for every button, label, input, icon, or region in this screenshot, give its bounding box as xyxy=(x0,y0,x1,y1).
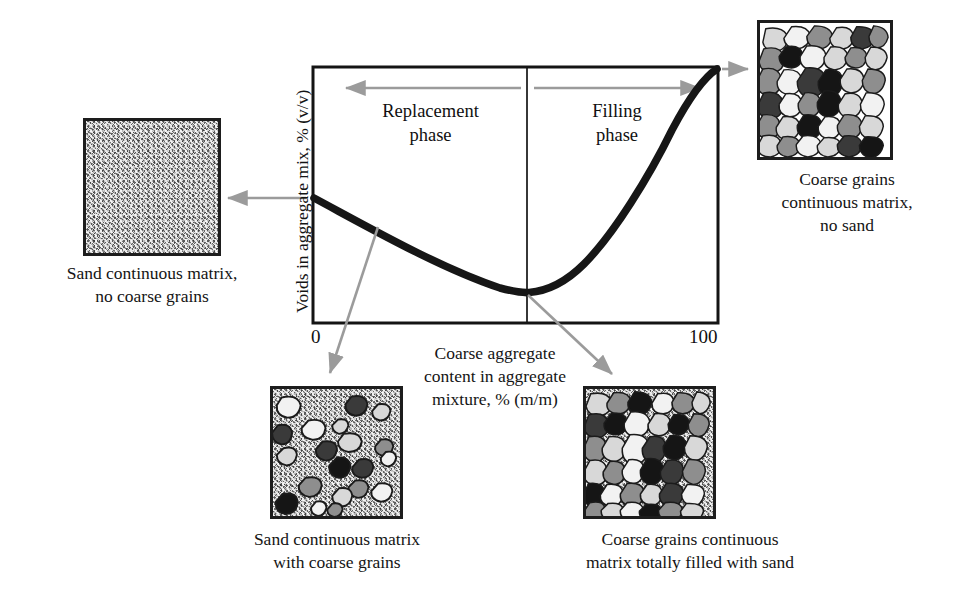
caption-sand-with-coarse: Sand continuous matrix with coarse grain… xyxy=(203,528,471,574)
x-tick-100: 100 xyxy=(689,326,718,348)
panel-sand-with-coarse xyxy=(270,386,403,519)
caption-sand-only: Sand continuous matrix, no coarse grains xyxy=(11,262,293,308)
x-axis-title-line-1: Coarse aggregate xyxy=(385,342,605,365)
caption-coarse-only: Coarse grains continuous matrix, no sand xyxy=(748,168,946,237)
caption-coarse-filled-line-2: matrix totally filled with sand xyxy=(520,551,860,574)
caption-coarse-only-line-3: no sand xyxy=(748,214,946,237)
x-axis-title-line-2: content in aggregate xyxy=(385,365,605,388)
caption-sand-only-line-1: Sand continuous matrix, xyxy=(11,262,293,285)
caption-coarse-filled-with-sand: Coarse grains continuous matrix totally … xyxy=(520,528,860,574)
filling-phase-label: Filling phase xyxy=(537,100,697,147)
replacement-phase-line-1: Replacement xyxy=(343,100,518,124)
x-axis-title: Coarse aggregate content in aggregate mi… xyxy=(385,342,605,410)
sand-texture-fill xyxy=(86,121,218,253)
panel-sand-only xyxy=(83,118,221,256)
caption-sand-with-coarse-line-2: with coarse grains xyxy=(203,551,471,574)
packed-grains-in-sand xyxy=(586,389,713,516)
caption-coarse-only-line-2: continuous matrix, xyxy=(748,191,946,214)
y-axis-title: Voids in aggregate mix, % (v/v) xyxy=(292,90,313,313)
panel-coarse-filled-with-sand xyxy=(583,386,716,519)
figure-root: Replacement phase Filling phase 0 100 Vo… xyxy=(0,0,953,600)
replacement-phase-line-2: phase xyxy=(343,124,518,148)
filling-phase-line-2: phase xyxy=(537,124,697,148)
panel-coarse-only xyxy=(757,20,893,160)
connector-sand-with-coarse-icon xyxy=(330,227,378,373)
filling-phase-line-1: Filling xyxy=(537,100,697,124)
caption-sand-only-line-2: no coarse grains xyxy=(11,285,293,308)
x-axis-title-line-3: mixture, % (m/m) xyxy=(385,388,605,411)
replacement-phase-label: Replacement phase xyxy=(343,100,518,147)
x-tick-0: 0 xyxy=(311,326,321,348)
caption-coarse-only-line-1: Coarse grains xyxy=(748,168,946,191)
coarse-only-grains xyxy=(760,23,890,157)
caption-sand-with-coarse-line-1: Sand continuous matrix xyxy=(203,528,471,551)
sparse-grains xyxy=(273,389,400,516)
caption-coarse-filled-line-1: Coarse grains continuous xyxy=(520,528,860,551)
